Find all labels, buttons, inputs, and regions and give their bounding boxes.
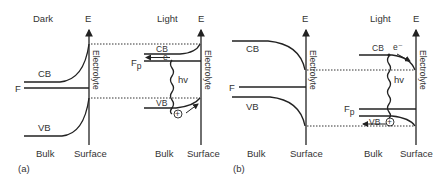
energy-axis-label: E [85, 13, 91, 24]
electrolyte-label: Electrolyte [203, 50, 213, 90]
energy-axis-label: E [413, 13, 419, 24]
conduction-band-line [144, 44, 200, 54]
energy-axis-label: E [302, 13, 308, 24]
valence-band-line [24, 98, 89, 136]
panel-a-caption: (a) [18, 163, 30, 174]
cb-label: CB [38, 68, 51, 79]
energy-axis-label: E [198, 13, 204, 24]
fp-label: Fp [344, 103, 355, 117]
conduction-band-line [232, 41, 305, 70]
conduction-band-line [359, 55, 415, 70]
light-title: Light [157, 13, 178, 24]
valence-band-line [232, 97, 305, 126]
panel-b-light: Light E CB e⁻ hv Fp VB + Electrolyte Bul… [344, 13, 433, 159]
electron-label: e [163, 52, 168, 62]
vb-label: VB [38, 122, 51, 133]
band-bending-diagram: Dark E CB F VB Electrolyte Bulk Surface … [0, 0, 445, 185]
hole-label: + [175, 109, 180, 119]
photon-label: hv [394, 74, 404, 85]
vb-label: VB [369, 117, 381, 127]
electrolyte-label: Electrolyte [91, 50, 101, 90]
bulk-label: Bulk [364, 148, 383, 159]
bulk-label: Bulk [155, 148, 174, 159]
cb-label: CB [246, 43, 259, 54]
vb-label: VB [156, 98, 168, 108]
panel-b-caption: (b) [233, 163, 245, 174]
bulk-label: Bulk [36, 148, 55, 159]
photon-label: hv [178, 74, 188, 85]
photon-wave [171, 60, 174, 114]
surface-label: Surface [400, 148, 433, 159]
electron-label: e⁻ [393, 42, 403, 52]
surface-label: Surface [290, 148, 323, 159]
hole-label: + [387, 117, 392, 127]
electron-flow-arrow [397, 54, 410, 61]
dark-title: Dark [33, 13, 53, 24]
fermi-label: F [229, 82, 235, 93]
fermi-label: F [15, 83, 21, 94]
fp-label: Fp [131, 57, 142, 71]
surface-label: Surface [187, 148, 220, 159]
panel-a-light: Light E CB e Fp hv VB + Electrolyte Bulk… [131, 13, 220, 159]
panel-a-dark: Dark E CB F VB Electrolyte Bulk Surface [15, 13, 107, 159]
cb-label: CB [372, 43, 384, 53]
conduction-band-line [24, 44, 89, 82]
bulk-label: Bulk [247, 148, 266, 159]
electrolyte-label: Electrolyte [418, 50, 428, 90]
light-title: Light [370, 13, 391, 24]
panel-b-dark: E CB F VB Electrolyte Bulk Surface [229, 13, 323, 159]
vb-label: VB [246, 101, 259, 112]
surface-label: Surface [74, 148, 107, 159]
